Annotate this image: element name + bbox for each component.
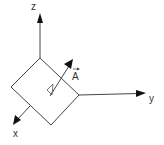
vector-a [50,59,73,96]
surface-marker-icon [47,84,53,95]
x-axis [13,106,30,125]
y-axis-label: y [149,93,154,104]
z-arrowhead-icon [37,13,43,23]
z-axis-label: z [31,1,36,12]
z-axis [37,13,43,58]
y-arrowhead-icon [136,90,146,97]
diagram-canvas: z y x A [0,0,164,145]
vector-a-label: A [72,71,79,82]
y-axis [79,90,146,97]
x-axis-label: x [13,128,18,139]
